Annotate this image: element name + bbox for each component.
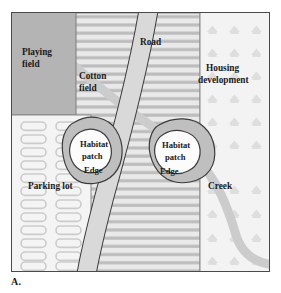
label-playing-field-line2: field [22,59,40,69]
label-habitat-right-edge: Edge [160,166,179,176]
map-frame: Playing field Cotton field Housing devel… [11,12,270,272]
label-habitat-right-line2: patch [165,152,186,162]
figure-panel: Playing field Cotton field Housing devel… [0,0,281,293]
label-road: Road [140,37,162,47]
landscape-map: Playing field Cotton field Housing devel… [12,13,269,271]
label-cotton-field-line1: Cotton [79,71,107,81]
label-habitat-left-line1: Habitat [80,139,108,149]
label-cotton-field-line2: field [79,83,97,93]
label-habitat-left-edge: Edge [84,165,103,175]
label-habitat-left-line2: patch [82,151,103,161]
label-habitat-right-line1: Habitat [162,140,190,150]
label-housing-line2: development [198,75,250,85]
label-playing-field-line1: Playing [22,47,52,57]
label-parking-lot: Parking lot [28,181,74,191]
panel-letter: A. [11,276,21,287]
label-creek: Creek [208,181,233,191]
label-housing-line1: Housing [206,63,239,73]
